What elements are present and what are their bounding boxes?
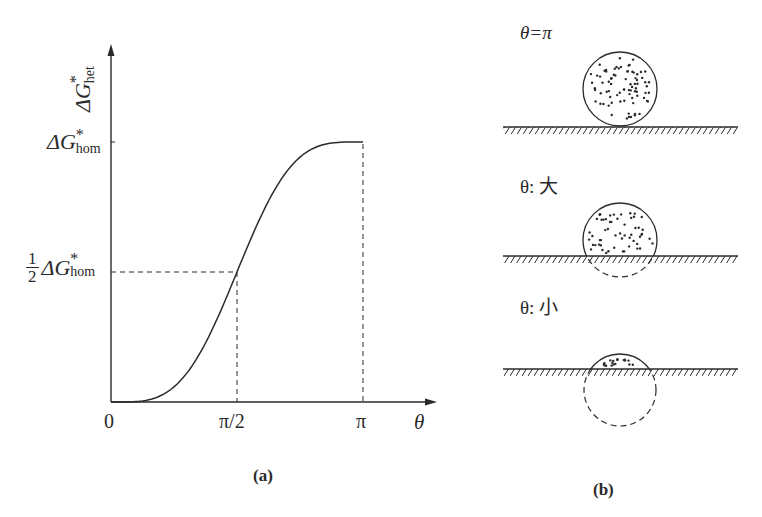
panel-b-diagrams: [503, 52, 738, 426]
diagram-label-2: θ: 大: [520, 171, 558, 198]
y-tick-top-main: ΔG: [47, 129, 76, 154]
fraction-half: 1 2: [26, 250, 39, 285]
figure-canvas: [0, 0, 762, 517]
diagram-full-sphere: [503, 52, 738, 134]
y-tick-label-top: ΔG*hom: [47, 129, 101, 155]
y-axis-arrow-icon: [108, 44, 115, 56]
diagram-small-cap: [503, 354, 738, 426]
diagram-label-1: θ=π: [520, 22, 552, 44]
diagram-label-3: θ: 小: [520, 292, 558, 319]
x-axis-arrow-icon: [425, 399, 437, 406]
x-tick-label-pi: π: [356, 410, 366, 433]
nucleus-dots: [603, 358, 634, 367]
x-tick-label-0: 0: [104, 410, 114, 433]
diagram-large-cap: [503, 203, 738, 277]
y-axis-label: ΔG*het: [70, 66, 96, 112]
y-tick-label-half: 1 2 ΔG*hom: [26, 250, 95, 285]
fraction-denominator: 2: [28, 268, 37, 285]
y-axis-label-main: ΔG: [70, 83, 95, 112]
y-tick-top-sub: hom: [76, 141, 101, 156]
panel-a-axes: [108, 44, 438, 406]
y-axis-label-sub: het: [82, 66, 97, 83]
nucleus-dots: [588, 212, 654, 254]
fraction-numerator: 1: [26, 250, 39, 268]
caption-b: (b): [593, 480, 614, 500]
x-tick-label-half-pi: π/2: [219, 410, 245, 433]
x-axis-label: θ: [414, 410, 424, 435]
nucleus-dots: [590, 57, 651, 120]
y-tick-half-main: ΔG: [42, 255, 71, 281]
caption-a: (a): [253, 466, 273, 486]
y-tick-half-sub: hom: [70, 264, 95, 280]
